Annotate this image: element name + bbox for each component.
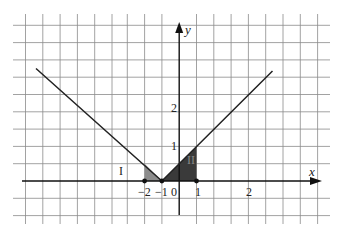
y-axis-label: y: [183, 22, 191, 37]
y-axis-arrow-icon: [175, 22, 183, 33]
point-neg2: [142, 179, 147, 184]
y-tick-1: 1: [171, 139, 177, 153]
x-tick-neg2: −2: [138, 185, 151, 199]
point-1: [194, 179, 199, 184]
x-tick-neg1: −1: [155, 185, 168, 199]
region-ii-label: II: [187, 153, 195, 167]
y-tick-2: 2: [171, 101, 177, 115]
region-i-label: I: [119, 164, 123, 178]
function-graph: [36, 69, 273, 182]
point-neg1: [160, 179, 165, 184]
x-tick-1: 1: [195, 185, 201, 199]
x-tick-0: 0: [171, 185, 177, 199]
x-tick-2: 2: [246, 185, 252, 199]
x-axis-label: x: [308, 164, 315, 179]
graph-figure: x y −2 −1 0 1 2 1 2 I II: [0, 0, 340, 233]
